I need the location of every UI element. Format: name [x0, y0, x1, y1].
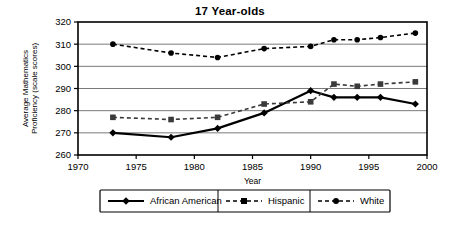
x-tick-label: 1990 — [300, 161, 321, 172]
data-point-square — [110, 115, 116, 121]
legend-label: White — [360, 195, 384, 206]
data-point-circle — [168, 50, 174, 56]
data-point-diamond — [109, 129, 116, 136]
data-point-square — [354, 83, 360, 89]
data-point-square — [308, 99, 314, 105]
x-tick-label: 2000 — [416, 161, 437, 172]
data-point-diamond — [354, 94, 361, 101]
data-point-square — [378, 81, 384, 87]
chart-container: 17 Year-olds 260270280290300310320 19701… — [0, 0, 460, 225]
data-point-diamond — [167, 134, 174, 141]
data-point-circle — [378, 35, 384, 41]
y-tick-label: 320 — [55, 16, 71, 27]
data-point-square — [261, 101, 267, 107]
data-point-circle — [261, 46, 267, 52]
data-point-circle — [308, 44, 314, 50]
x-tick-label: 1975 — [126, 161, 147, 172]
chart-legend: African AmericanHispanicWhite — [100, 190, 390, 212]
data-point-circle — [333, 198, 339, 204]
chart-title: 17 Year-olds — [0, 5, 460, 17]
data-point-diamond — [377, 94, 384, 101]
data-point-diamond — [330, 94, 337, 101]
x-axis-ticks: 1970197519801985199019952000 — [67, 155, 437, 172]
series-white — [110, 30, 418, 60]
data-point-square — [241, 198, 247, 204]
data-point-circle — [354, 37, 360, 43]
data-point-diamond — [214, 125, 221, 132]
y-axis-ticks: 260270280290300310320 — [55, 16, 78, 160]
y-tick-label: 310 — [55, 39, 71, 50]
y-tick-label: 300 — [55, 61, 71, 72]
data-point-square — [168, 117, 174, 123]
data-point-circle — [331, 37, 337, 43]
data-point-square — [215, 115, 221, 121]
x-tick-label: 1995 — [358, 161, 379, 172]
y-axis-label-line1: Average Mathematics — [21, 50, 30, 127]
legend-label: African American — [150, 195, 222, 206]
line-chart-plot: 260270280290300310320 197019751980198519… — [0, 0, 460, 225]
x-tick-label: 1980 — [184, 161, 205, 172]
data-point-circle — [110, 41, 116, 47]
y-tick-label: 260 — [55, 149, 71, 160]
data-series-group — [109, 30, 419, 141]
data-point-diamond — [412, 100, 419, 107]
y-tick-label: 280 — [55, 105, 71, 116]
x-axis-label: Year — [244, 176, 261, 186]
data-point-circle — [215, 55, 221, 61]
x-tick-label: 1970 — [67, 161, 88, 172]
y-tick-label: 270 — [55, 127, 71, 138]
y-axis-label-line2: Proficiency (scale scores) — [30, 43, 39, 134]
y-tick-label: 290 — [55, 83, 71, 94]
legend-label: Hispanic — [268, 195, 305, 206]
gridlines-group — [78, 44, 427, 133]
data-point-square — [413, 79, 419, 85]
data-point-square — [331, 81, 337, 87]
data-point-circle — [413, 30, 419, 36]
x-tick-label: 1985 — [242, 161, 263, 172]
y-axis-label: Average Mathematics Proficiency (scale s… — [21, 43, 39, 134]
